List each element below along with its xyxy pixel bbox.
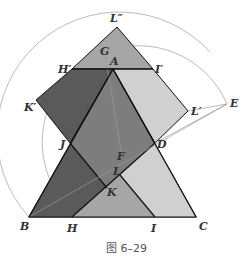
label-D: D bbox=[156, 138, 167, 151]
label-J: J bbox=[58, 138, 66, 151]
label-L: L bbox=[112, 165, 121, 178]
label-Kp: K′ bbox=[23, 101, 37, 114]
label-Ip: I′ bbox=[154, 63, 163, 76]
label-Hp: H′ bbox=[57, 63, 71, 76]
label-K: K bbox=[106, 186, 117, 199]
label-I: I bbox=[150, 222, 157, 235]
label-C: C bbox=[199, 220, 208, 233]
label-A: A bbox=[109, 55, 119, 68]
geometry-diagram: L″ G H′ A I′ K′ L′ E J D F L K B H I C 图… bbox=[0, 0, 250, 260]
label-Lpp: L″ bbox=[109, 12, 123, 25]
label-B: B bbox=[19, 220, 29, 233]
label-Lp: L′ bbox=[190, 105, 202, 118]
label-F: F bbox=[116, 150, 126, 163]
figure-caption: 图 6–29 bbox=[106, 242, 147, 255]
label-G: G bbox=[100, 45, 109, 58]
label-E: E bbox=[229, 97, 239, 110]
label-H: H bbox=[66, 222, 78, 235]
